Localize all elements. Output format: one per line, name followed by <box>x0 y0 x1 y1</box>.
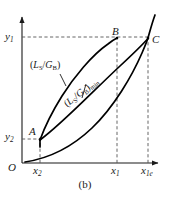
point-marker-B <box>116 37 119 40</box>
point-marker-A <box>39 138 42 141</box>
leader-ls-gb <box>60 74 66 86</box>
point-label-b: B <box>112 26 119 37</box>
figure-container: y1 y2 O x2 x1 x1e A B C (LS/GB) (LS/GB)m… <box>0 0 170 198</box>
annotation-ls-over-gb: (LS/GB) <box>30 60 60 70</box>
x-axis-tick-label-x2: x2 <box>33 165 42 176</box>
point-marker-C <box>147 37 150 40</box>
point-label-a: A <box>29 126 36 137</box>
figure-caption: (b) <box>0 178 170 190</box>
y-axis-tick-label-y1: y1 <box>5 31 14 42</box>
point-label-c: C <box>152 34 159 45</box>
origin-label: O <box>8 162 16 173</box>
x-axis-tick-label-x1e: x1e <box>141 165 153 176</box>
x-axis-tick-label-x1: x1 <box>111 165 120 176</box>
y-axis-tick-label-y2: y2 <box>5 131 14 142</box>
